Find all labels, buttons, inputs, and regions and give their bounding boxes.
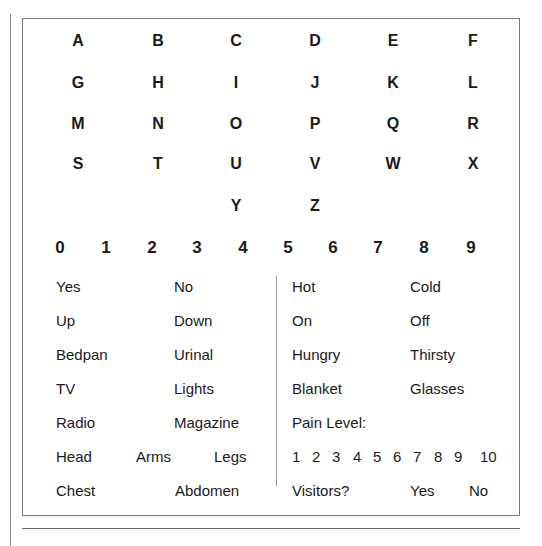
word-cell[interactable]: Thirsty — [410, 346, 455, 363]
pain-level-option[interactable]: 6 — [393, 448, 401, 465]
letter-cell[interactable]: F — [468, 32, 478, 50]
letter-cell[interactable]: W — [385, 155, 400, 173]
letter-cell[interactable]: B — [152, 32, 164, 50]
word-cell[interactable]: Hungry — [292, 346, 340, 363]
pain-level-option[interactable]: 10 — [480, 448, 497, 465]
word-cell[interactable]: Down — [174, 312, 212, 329]
word-cell[interactable]: Yes — [56, 278, 80, 295]
word-cell[interactable]: Yes — [410, 482, 434, 499]
word-cell[interactable]: Visitors? — [292, 482, 349, 499]
letter-cell[interactable]: V — [310, 155, 321, 173]
word-cell[interactable]: Abdomen — [175, 482, 239, 499]
word-cell[interactable]: Magazine — [174, 414, 239, 431]
word-cell[interactable]: Glasses — [410, 380, 464, 397]
letter-cell[interactable]: Z — [310, 197, 320, 215]
letter-cell[interactable]: Y — [231, 197, 242, 215]
pain-level-option[interactable]: 2 — [312, 448, 320, 465]
digit-cell[interactable]: 8 — [419, 238, 428, 258]
column-divider — [276, 276, 277, 486]
word-cell[interactable]: Head — [56, 448, 92, 465]
pain-level-option[interactable]: 4 — [353, 448, 361, 465]
bottom-rule — [22, 528, 520, 529]
letter-cell[interactable]: P — [310, 115, 321, 133]
word-cell[interactable]: Radio — [56, 414, 95, 431]
letter-cell[interactable]: E — [388, 32, 399, 50]
word-cell[interactable]: Chest — [56, 482, 95, 499]
letter-cell[interactable]: S — [73, 155, 84, 173]
pain-level-option[interactable]: 1 — [292, 448, 300, 465]
word-cell[interactable]: Pain Level: — [292, 414, 366, 431]
digit-cell[interactable]: 1 — [101, 238, 110, 258]
pain-level-option[interactable]: 3 — [332, 448, 340, 465]
digit-cell[interactable]: 4 — [238, 238, 247, 258]
letter-cell[interactable]: H — [152, 74, 164, 92]
letter-cell[interactable]: O — [230, 115, 242, 133]
word-cell[interactable]: Urinal — [174, 346, 213, 363]
letter-cell[interactable]: G — [72, 74, 84, 92]
word-cell[interactable]: Cold — [410, 278, 441, 295]
letter-cell[interactable]: R — [467, 115, 479, 133]
word-cell[interactable]: No — [469, 482, 488, 499]
letter-cell[interactable]: C — [230, 32, 242, 50]
pain-level-option[interactable]: 8 — [434, 448, 442, 465]
digit-cell[interactable]: 2 — [147, 238, 156, 258]
word-cell[interactable]: Legs — [214, 448, 247, 465]
letter-cell[interactable]: T — [153, 155, 163, 173]
pain-level-option[interactable]: 5 — [373, 448, 381, 465]
letter-cell[interactable]: U — [230, 155, 242, 173]
word-cell[interactable]: Lights — [174, 380, 214, 397]
digit-cell[interactable]: 3 — [192, 238, 201, 258]
letter-cell[interactable]: J — [311, 74, 320, 92]
digit-cell[interactable]: 9 — [466, 238, 475, 258]
word-cell[interactable]: No — [174, 278, 193, 295]
pain-level-option[interactable]: 7 — [413, 448, 421, 465]
letter-cell[interactable]: K — [387, 74, 399, 92]
word-cell[interactable]: Arms — [136, 448, 171, 465]
digit-cell[interactable]: 5 — [283, 238, 292, 258]
letter-cell[interactable]: L — [468, 74, 478, 92]
word-cell[interactable]: Off — [410, 312, 430, 329]
letter-cell[interactable]: Q — [387, 115, 399, 133]
letter-cell[interactable]: A — [72, 32, 84, 50]
word-cell[interactable]: Up — [56, 312, 75, 329]
digit-cell[interactable]: 6 — [328, 238, 337, 258]
word-cell[interactable]: Bedpan — [56, 346, 108, 363]
word-cell[interactable]: On — [292, 312, 312, 329]
digit-cell[interactable]: 7 — [373, 238, 382, 258]
letter-cell[interactable]: X — [468, 155, 479, 173]
letter-cell[interactable]: M — [71, 115, 84, 133]
word-cell[interactable]: Hot — [292, 278, 315, 295]
left-margin-rule — [10, 14, 11, 546]
letter-cell[interactable]: N — [152, 115, 164, 133]
word-cell[interactable]: Blanket — [292, 380, 342, 397]
communication-board-frame — [22, 18, 520, 516]
word-cell[interactable]: TV — [56, 380, 75, 397]
letter-cell[interactable]: I — [234, 74, 238, 92]
letter-cell[interactable]: D — [309, 32, 321, 50]
digit-cell[interactable]: 0 — [55, 238, 64, 258]
pain-level-option[interactable]: 9 — [454, 448, 462, 465]
